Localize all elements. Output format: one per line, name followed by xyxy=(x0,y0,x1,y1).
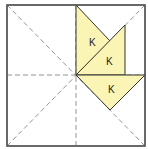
piece-label: K xyxy=(89,37,96,48)
piece-label: K xyxy=(106,56,113,67)
piece-label: K xyxy=(108,84,115,95)
folding-diagram: KKK xyxy=(0,0,148,149)
